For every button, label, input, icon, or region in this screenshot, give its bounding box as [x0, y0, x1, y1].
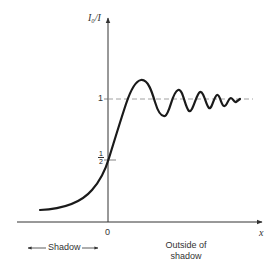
y-tick-one: 1: [98, 93, 103, 103]
intensity-curve: [40, 80, 240, 210]
diagram-canvas: [0, 0, 278, 276]
outside-shadow-label: Outside of shadow: [156, 240, 216, 262]
half-denominator: 2: [97, 158, 105, 165]
half-numerator: 1: [97, 150, 105, 157]
shadow-region-label: Shadow: [48, 242, 81, 252]
x-axis-label: x: [259, 227, 263, 238]
outside-shadow-line2: shadow: [156, 251, 216, 262]
outside-shadow-line1: Outside of: [156, 240, 216, 251]
y-tick-half: 1 2: [97, 150, 105, 165]
y-axis-label: I₀/I: [88, 12, 101, 23]
x-tick-zero: 0: [105, 227, 110, 237]
